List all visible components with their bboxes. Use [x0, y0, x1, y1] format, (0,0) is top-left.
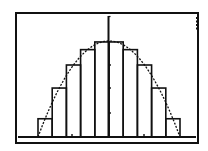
riemann-rectangle: [81, 50, 95, 137]
riemann-rectangle: [109, 42, 123, 137]
riemann-rectangle: [38, 119, 52, 137]
riemann-rectangle: [66, 65, 80, 137]
riemann-sum-plot: [0, 0, 208, 151]
riemann-rectangle: [52, 88, 66, 137]
riemann-rectangle: [137, 65, 151, 137]
riemann-rectangle: [95, 42, 109, 137]
riemann-rectangle: [152, 88, 166, 137]
riemann-rectangle: [123, 50, 137, 137]
riemann-rectangle: [166, 119, 180, 137]
calculator-graph-screen: [0, 0, 208, 151]
